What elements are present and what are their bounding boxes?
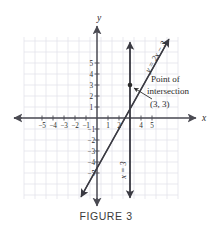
annotation-line-1: Point of [151, 74, 180, 84]
x-tick-label: −4 [49, 122, 57, 130]
y-tick-label: 5 [89, 60, 93, 68]
annotation-line-3: (3, 3) [150, 99, 170, 109]
figure-caption: FIGURE 3 [0, 210, 212, 222]
axes [14, 26, 196, 206]
y-tick-label: 4 [89, 71, 93, 79]
intersection-annotation: Point of intersection (3, 3) [147, 74, 189, 109]
y-axis-label: y [96, 13, 102, 23]
y-tick-label: −2 [87, 137, 95, 145]
x-tick-label: 5 [150, 122, 154, 130]
x-tick-label: −2 [71, 122, 79, 130]
x-tick-label: −3 [60, 122, 68, 130]
x-axis-label: x [201, 113, 207, 123]
intersection-point-marker [128, 83, 133, 88]
x-tick-label: 4 [139, 122, 143, 130]
graph-plot: −5 −4 −3 −2 −1 1 2 4 5 5 4 3 2 1 −1 −2 −… [0, 0, 212, 238]
figure-container: −5 −4 −3 −2 −1 1 2 4 5 5 4 3 2 1 −1 −2 −… [0, 0, 212, 238]
y-tick-label: 3 [89, 82, 93, 90]
x-tick-label: 1 [106, 122, 110, 130]
x-tick-label: −5 [38, 122, 46, 130]
y-tick-label: −3 [87, 148, 95, 156]
y-tick-label: 2 [89, 93, 93, 101]
vertical-line-equation-label: x = 3 [119, 161, 128, 179]
y-tick-label: −4 [87, 159, 95, 167]
annotation-line-2: intersection [147, 86, 189, 96]
y-tick-label: −1 [87, 126, 95, 134]
y-tick-label: 1 [89, 104, 93, 112]
slanted-line-equation-label: y = 2x − 3 [143, 39, 168, 75]
